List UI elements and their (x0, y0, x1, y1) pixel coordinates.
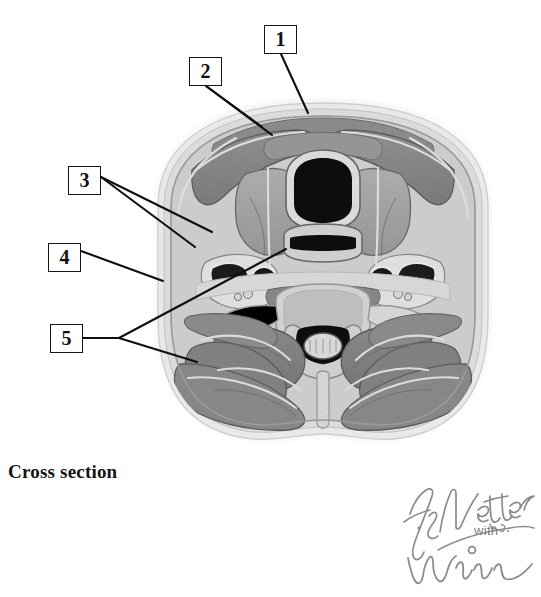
signature-with-label: with (474, 523, 498, 538)
callout-box-5[interactable]: 5 (50, 324, 83, 353)
esophagus-lumen (290, 235, 356, 251)
small-vessel-left (234, 293, 241, 300)
callout-box-1[interactable]: 1 (264, 25, 297, 54)
callout-box-3[interactable]: 3 (68, 166, 101, 195)
small-vessel-right (404, 293, 411, 300)
signature-winn-strokes (408, 547, 532, 584)
page-caption: Cross section (8, 461, 117, 483)
tracheal-lumen-airway (294, 158, 352, 223)
artist-signature: with (398, 466, 538, 591)
callout-label-5: 5 (62, 328, 72, 348)
callout-label-2: 2 (201, 61, 211, 81)
callout-label-3: 3 (80, 170, 90, 190)
callout-label-1: 1 (276, 29, 286, 49)
figure-page: 12345 Cross section (0, 0, 541, 597)
callout-label-4: 4 (60, 247, 70, 267)
callout-box-4[interactable]: 4 (48, 243, 81, 272)
anatomical-cross-section-image (118, 78, 528, 453)
callout-box-2[interactable]: 2 (189, 57, 222, 86)
